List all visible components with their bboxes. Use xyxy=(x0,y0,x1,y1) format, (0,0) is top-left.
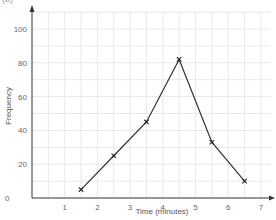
y-tick-label: 100 xyxy=(14,25,28,34)
x-axis-arrow-icon xyxy=(269,196,275,201)
x-tick-label: 5 xyxy=(193,203,198,212)
y-tick-label: 40 xyxy=(18,126,27,135)
x-tick-label: 6 xyxy=(226,203,231,212)
x-axis-label: Time (minutes) xyxy=(135,207,188,216)
x-tick-label: 1 xyxy=(62,203,67,212)
part-label: (b) xyxy=(2,0,13,4)
y-tick-label: 60 xyxy=(18,93,27,102)
axes xyxy=(30,5,276,201)
y-tick-labels: 20406080100 xyxy=(14,25,28,169)
y-axis-label: Frequency xyxy=(4,87,13,125)
y-tick-label: 80 xyxy=(18,59,27,68)
origin-label: 0 xyxy=(5,194,10,203)
x-tick-label: 7 xyxy=(259,203,264,212)
y-tick-label: 20 xyxy=(18,160,27,169)
x-tick-label: 3 xyxy=(128,203,133,212)
x-tick-label: 2 xyxy=(95,203,100,212)
y-axis-arrow-icon xyxy=(30,5,35,12)
frequency-polygon-chart: (b) 1234567 20406080100 0 Time (minutes)… xyxy=(0,0,276,220)
